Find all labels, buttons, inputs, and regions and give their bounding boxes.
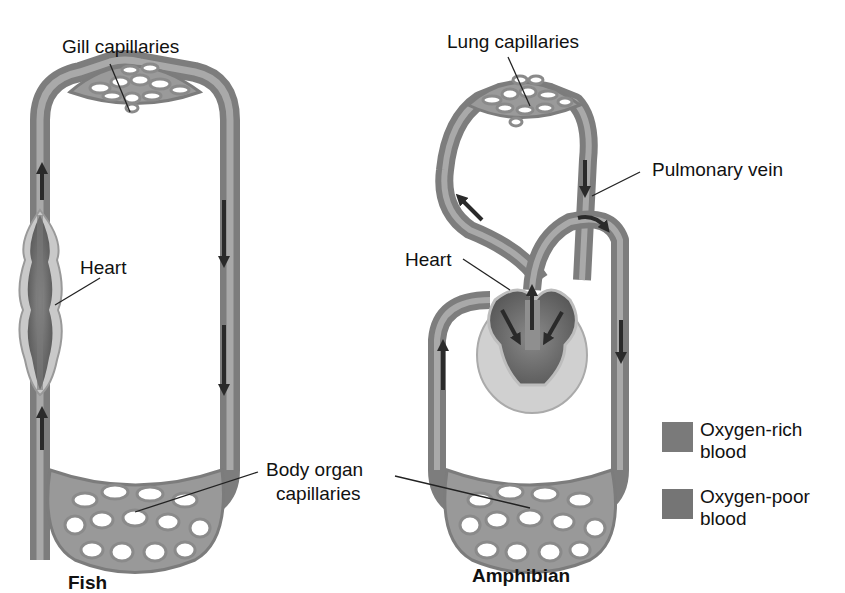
body-capillaries-label-line2: capillaries [276, 483, 360, 505]
fish-flow-arrows [42, 168, 224, 450]
amphibian-circuit [395, 57, 640, 573]
legend-label-oxygen-poor: Oxygen-poor blood [700, 486, 810, 530]
legend-item-oxygen-rich: Oxygen-rich blood [662, 419, 810, 463]
amphibian-panel-title: Amphibian [472, 565, 570, 587]
fish-body-capillaries-icon [48, 470, 224, 573]
oxygen-rich-swatch-icon [662, 422, 693, 452]
fish-heart-icon [19, 210, 61, 395]
oxygen-poor-swatch-icon [662, 489, 693, 519]
fish-heart-label: Heart [80, 257, 126, 279]
lung-capillaries-icon [468, 76, 580, 126]
gill-capillaries-label: Gill capillaries [62, 36, 179, 58]
lung-capillaries-label: Lung capillaries [447, 31, 579, 53]
pulmonary-vein-label: Pulmonary vein [652, 159, 783, 181]
legend-label-oxygen-rich: Oxygen-rich blood [700, 419, 810, 463]
amphibian-heart-label: Heart [405, 249, 451, 271]
fish-circuit [19, 60, 258, 573]
fish-panel-title: Fish [68, 572, 107, 593]
legend-item-oxygen-poor: Oxygen-poor blood [662, 486, 810, 530]
amphibian-body-capillaries-icon [445, 470, 616, 573]
body-capillaries-label-line1: Body organ [266, 459, 363, 481]
